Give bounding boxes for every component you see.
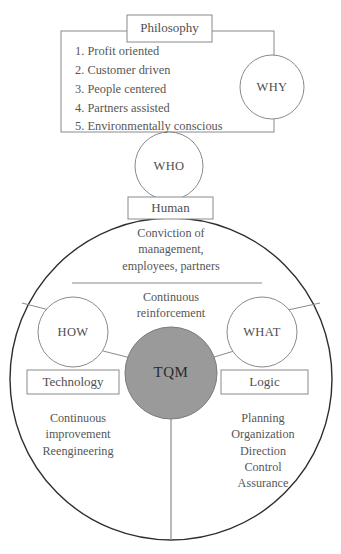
what-circle-shape [227, 297, 297, 367]
list-item: 1. Profit oriented [75, 42, 265, 61]
who-circle-shape [135, 132, 203, 200]
tqm-circle-shape [125, 327, 217, 419]
list-item: 2. Customer driven [75, 61, 265, 80]
tqm-philosophy-diagram: Philosophy 1. Profit oriented 2. Custome… [0, 0, 341, 554]
technology-box-shape [27, 370, 119, 394]
philosophy-box-shape [127, 15, 212, 42]
logic-box-shape [221, 370, 308, 394]
how-circle-shape [38, 297, 108, 367]
list-item: 5. Environmentally conscious [75, 117, 265, 136]
philosophy-list: 1. Profit oriented 2. Customer driven 3.… [75, 42, 265, 136]
human-box-shape [128, 197, 213, 219]
list-item: 4. Partners assisted [75, 99, 265, 118]
list-item: 3. People centered [75, 80, 265, 99]
